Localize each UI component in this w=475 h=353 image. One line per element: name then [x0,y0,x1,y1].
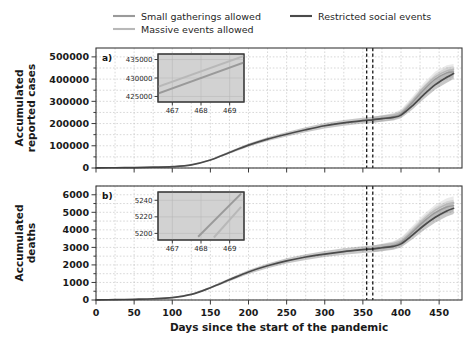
y-tick-label: 400000 [49,74,89,85]
y-tick-label: 100000 [49,140,89,151]
x-tick-label: 150 [200,307,220,318]
inset-y-tick-label: 425000 [126,93,153,101]
y-tick-label: 0 [82,162,89,173]
x-tick-label: 450 [429,307,449,318]
x-tick-label: 100 [162,307,182,318]
inset-y-tick-label: 430000 [126,75,153,83]
y-tick-label: 5000 [63,207,90,218]
y-tick-label: 300000 [49,96,89,107]
x-tick-label: 350 [353,307,373,318]
legend-label: Small gatherings allowed [141,11,261,22]
figure-container: Small gatherings allowedRestricted socia… [0,0,475,353]
legend-label: Restricted social events [318,11,431,22]
y-axis-label-line1: Accumulated [13,70,25,147]
inset-x-tick-label: 468 [194,245,207,253]
y-tick-label: 6000 [63,189,90,200]
y-axis-label-line1: Accumulated [13,205,25,282]
x-tick-label: 250 [277,307,297,318]
inset-x-tick-label: 469 [223,107,236,115]
y-axis-label-line2: deaths [25,223,37,263]
chart-svg: Small gatherings allowedRestricted socia… [0,0,475,353]
y-axis-label: Accumulatedreported cases [13,64,37,152]
panel-letter: a) [102,53,112,63]
inset-x-tick-label: 467 [166,107,179,115]
x-tick-label: 400 [391,307,411,318]
inset-y-tick-label: 5240 [135,197,153,205]
inset-x-tick-label: 468 [194,107,207,115]
inset-y-tick-label: 5200 [135,230,153,238]
panel-letter: b) [102,191,113,201]
y-tick-label: 200000 [49,118,89,129]
x-tick-label: 200 [239,307,259,318]
x-tick-label: 0 [93,307,100,318]
x-axis-label: Days since the start of the pandemic [170,321,388,333]
legend-label: Massive events allowed [141,24,254,35]
y-tick-label: 3000 [63,242,90,253]
y-tick-label: 0 [82,294,89,305]
inset-x-tick-label: 469 [223,245,236,253]
inset-y-tick-label: 5220 [135,213,153,221]
y-axis-label-line2: reported cases [25,64,37,152]
y-tick-label: 1000 [63,277,90,288]
y-tick-label: 500000 [49,51,89,62]
x-tick-label: 300 [315,307,335,318]
inset-x-tick-label: 467 [166,245,179,253]
x-tick-label: 50 [128,307,142,318]
y-tick-label: 4000 [63,224,90,235]
y-tick-label: 2000 [63,259,90,270]
inset-y-tick-label: 435000 [126,56,153,64]
